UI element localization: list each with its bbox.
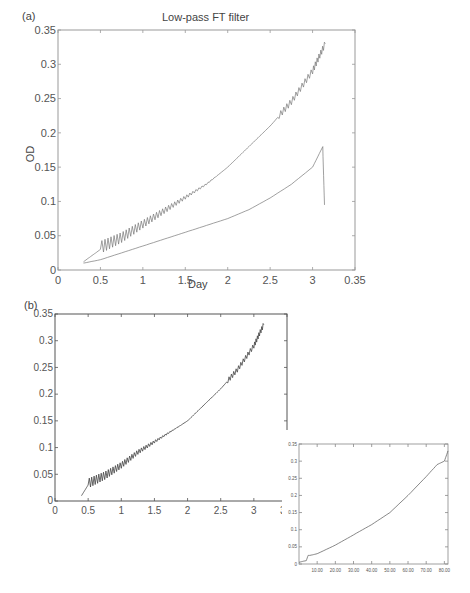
svg-text:2: 2 (185, 505, 191, 516)
svg-text:80.00: 80.00 (439, 568, 451, 573)
svg-text:0.35: 0.35 (344, 274, 365, 286)
svg-text:40.00: 40.00 (366, 568, 378, 573)
svg-text:50.00: 50.00 (384, 568, 396, 573)
svg-text:0: 0 (52, 505, 58, 516)
svg-text:20.00: 20.00 (330, 568, 342, 573)
svg-text:30.00: 30.00 (348, 568, 360, 573)
svg-text:60.00: 60.00 (402, 568, 414, 573)
inset-plot: 10.0020.0030.0040.0050.0060.0070.0080.00… (282, 430, 470, 590)
svg-text:1: 1 (119, 505, 125, 516)
svg-text:2.5: 2.5 (262, 274, 277, 286)
svg-text:0.05: 0.05 (34, 469, 54, 480)
svg-text:0.05: 0.05 (35, 229, 56, 241)
svg-text:0.5: 0.5 (81, 505, 95, 516)
svg-text:1: 1 (140, 274, 146, 286)
svg-text:0.3: 0.3 (41, 58, 56, 70)
svg-text:0.35: 0.35 (288, 442, 297, 447)
svg-text:0.05: 0.05 (288, 544, 297, 549)
svg-text:0: 0 (50, 264, 56, 276)
svg-text:0.1: 0.1 (41, 195, 56, 207)
svg-text:0.1: 0.1 (291, 527, 298, 532)
svg-text:0.15: 0.15 (288, 510, 297, 515)
svg-text:2.5: 2.5 (214, 505, 228, 516)
svg-text:0.5: 0.5 (93, 274, 108, 286)
panel-b-plot: 00.511.522.533.500.050.10.150.20.250.30.… (34, 308, 295, 516)
svg-text:0.25: 0.25 (288, 476, 297, 481)
svg-text:0.2: 0.2 (41, 127, 56, 139)
svg-text:0: 0 (55, 274, 61, 286)
svg-text:70.00: 70.00 (421, 568, 433, 573)
svg-text:1.5: 1.5 (178, 274, 193, 286)
svg-text:3: 3 (310, 274, 316, 286)
svg-text:3: 3 (251, 505, 257, 516)
svg-text:0.1: 0.1 (39, 442, 53, 453)
svg-text:0.35: 0.35 (34, 308, 54, 319)
svg-text:0.25: 0.25 (35, 92, 56, 104)
svg-text:2: 2 (225, 274, 231, 286)
svg-text:0.3: 0.3 (39, 335, 53, 346)
svg-text:0.15: 0.15 (35, 161, 56, 173)
svg-text:0: 0 (47, 495, 53, 506)
svg-text:0.15: 0.15 (34, 415, 54, 426)
svg-text:0.2: 0.2 (39, 388, 53, 399)
panel-a-plot: 00.511.522.530.3500.050.10.150.20.250.30… (35, 24, 366, 286)
svg-text:0.25: 0.25 (34, 362, 54, 373)
figure-canvas: 00.511.522.530.3500.050.10.150.20.250.30… (0, 0, 470, 593)
svg-text:0.2: 0.2 (291, 493, 298, 498)
svg-text:10.00: 10.00 (312, 568, 324, 573)
svg-text:1.5: 1.5 (147, 505, 161, 516)
svg-text:0.3: 0.3 (291, 459, 298, 464)
svg-text:0.35: 0.35 (35, 24, 56, 36)
